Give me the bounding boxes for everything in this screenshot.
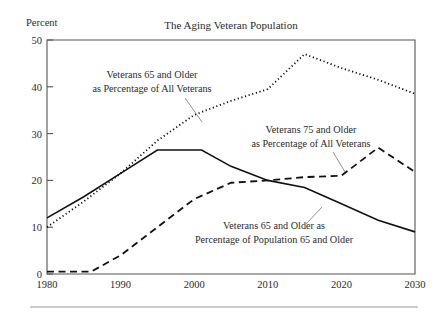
x-tick-label: 2020 (331, 279, 352, 290)
y-axis-title: Percent (26, 17, 58, 28)
x-tick-label: 1980 (37, 279, 58, 290)
figure-container: Percent The Aging Veteran Population 0 1… (0, 0, 436, 317)
chart-title: The Aging Veteran Population (164, 19, 298, 31)
x-tick-label: 1990 (110, 279, 131, 290)
annotation-line: Percentage of Population 65 and Older (195, 234, 354, 245)
y-tick-label: 40 (32, 82, 43, 93)
annotation-line: Veterans 75 and Older (266, 124, 357, 135)
x-tick-label: 2010 (257, 279, 278, 290)
x-tick-label: 2000 (184, 279, 205, 290)
aging-veteran-population-chart: Percent The Aging Veteran Population 0 1… (0, 0, 436, 317)
annotation-line: Veterans 65 and Older (107, 69, 198, 80)
y-tick-label: 30 (32, 129, 43, 140)
y-tick-label: 10 (32, 222, 43, 233)
annotation-line: Veterans 65 and Older as (223, 220, 325, 231)
annotation-line: as Percentage of All Veterans (92, 83, 211, 94)
y-tick-label: 20 (32, 175, 43, 186)
x-tick-label: 2030 (405, 279, 426, 290)
annotation-line: as Percentage of All Veterans (251, 138, 370, 149)
y-tick-label: 50 (32, 35, 43, 46)
